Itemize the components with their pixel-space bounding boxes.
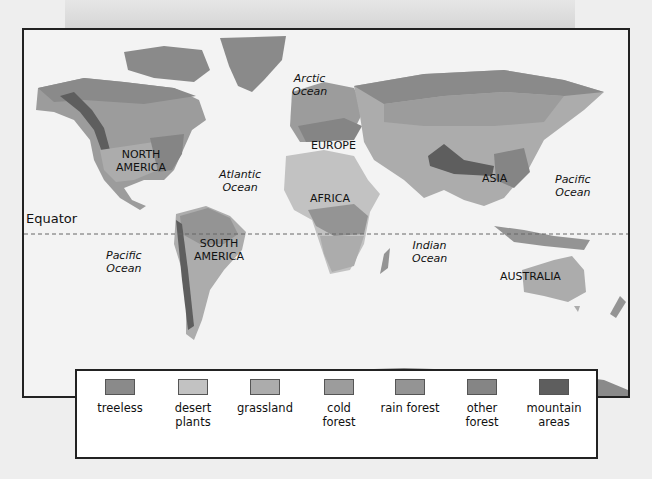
label-south-america: SOUTH AMERICA xyxy=(194,237,244,263)
new-zealand-shape xyxy=(610,296,626,318)
arctic-islands-shape xyxy=(124,46,210,82)
label-pacific-ocean-west: Pacific Ocean xyxy=(555,173,591,199)
tasmania-shape xyxy=(574,306,580,312)
legend-item-grassland: grassland xyxy=(228,379,302,415)
label-atlantic-ocean: Atlantic Ocean xyxy=(219,168,261,194)
label-africa: AFRICA xyxy=(310,192,350,205)
swatch-rain-forest xyxy=(395,379,425,395)
swatch-treeless xyxy=(105,379,135,395)
label-asia: ASIA xyxy=(482,172,507,185)
label-north-america: NORTH AMERICA xyxy=(116,148,166,174)
legend-item-desert-plants: desert plants xyxy=(156,379,230,429)
se-asia-islands xyxy=(494,226,590,250)
equator-label: Equator xyxy=(26,212,77,225)
label-indian-ocean: Indian Ocean xyxy=(412,239,447,265)
swatch-other-forest xyxy=(467,379,497,395)
swatch-mountain-areas xyxy=(539,379,569,395)
page-header-strip xyxy=(65,0,575,28)
africa-grassland xyxy=(320,236,364,272)
world-vegetation-map: Equator NORTH AMERICA SOUTH AMERICA EURO… xyxy=(22,28,630,398)
label-europe: EUROPE xyxy=(311,139,356,152)
legend-item-other-forest: other forest xyxy=(445,379,519,429)
madagascar-shape xyxy=(380,248,390,274)
legend-item-cold-forest: cold forest xyxy=(302,379,376,429)
swatch-desert-plants xyxy=(178,379,208,395)
legend-item-mountain-areas: mountain areas xyxy=(517,379,591,429)
legend-item-rain-forest: rain forest xyxy=(373,379,447,415)
greenland-shape xyxy=(220,36,286,92)
label-australia: AUSTRALIA xyxy=(500,270,561,283)
swatch-cold-forest xyxy=(324,379,354,395)
swatch-grassland xyxy=(250,379,280,395)
map-legend: treeless desert plants grassland cold fo… xyxy=(75,369,598,459)
label-arctic-ocean: Arctic Ocean xyxy=(292,72,327,98)
label-pacific-ocean-east: Pacific Ocean xyxy=(106,249,142,275)
legend-item-treeless: treeless xyxy=(83,379,157,415)
